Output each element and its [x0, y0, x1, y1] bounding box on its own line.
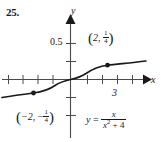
fraction-denominator: 4 [103, 37, 109, 45]
equation-denominator: x2 + 4 [101, 119, 126, 131]
x-axis-tick-label: 3 [112, 88, 117, 98]
data-point-upper [105, 63, 110, 68]
fraction-denominator: 4 [43, 116, 49, 124]
point-fraction: 14 [43, 109, 49, 124]
equation-lhs: y [86, 114, 90, 125]
equation-numerator: x [101, 109, 126, 119]
y-axis-tick-label: 0.5 [50, 37, 63, 47]
point-label-upper: (2, 14) [88, 31, 114, 46]
y-axis-label: y [71, 6, 75, 16]
paren-close: ) [49, 109, 54, 125]
function-equation: y = xx2 + 4 [86, 110, 126, 132]
fraction-numerator: 1 [43, 109, 49, 116]
denominator-rest: + 4 [113, 120, 125, 130]
data-point-lower [31, 91, 36, 96]
fraction-numerator: 1 [103, 30, 109, 37]
equals-sign: = [93, 114, 99, 125]
paren-close: ) [109, 30, 114, 46]
equation-fraction: xx2 + 4 [101, 109, 126, 131]
graph-figure: 25. y [0, 0, 162, 142]
point-x-value: −2 [21, 111, 33, 122]
denominator-exponent: 2 [107, 118, 110, 125]
point-label-lower: (−2, −14) [16, 110, 54, 125]
x-axis-label: x [151, 75, 155, 85]
point-fraction: 14 [103, 30, 109, 45]
